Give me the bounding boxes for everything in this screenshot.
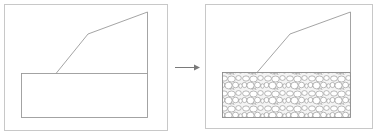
- arrow-right-icon: [175, 65, 200, 71]
- base-layer-empty: [22, 74, 148, 118]
- diagram-canvas: [0, 0, 378, 137]
- base-layer-gravel: [223, 73, 351, 118]
- panel-before: [5, 5, 168, 131]
- panel-after: [206, 5, 373, 129]
